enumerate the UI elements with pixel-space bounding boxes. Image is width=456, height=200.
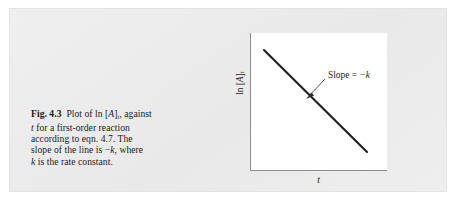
caption-line-3: according to eqn. 4.7. The — [31, 133, 183, 144]
plot-area: ln [A]t t Slope = −k — [221, 26, 401, 191]
plot-canvas — [221, 26, 401, 191]
figure-caption: Fig. 4.3 Plot of ln [A]t, against t for … — [31, 108, 183, 167]
data-line-lnA-vs-t — [264, 50, 367, 152]
caption-line-2: t for a first-order reaction — [31, 122, 183, 133]
caption-line-1: Fig. 4.3 Plot of ln [A]t, against — [31, 108, 183, 122]
figure-label: Fig. 4.3 — [31, 108, 62, 119]
figure-panel: Fig. 4.3 Plot of ln [A]t, against t for … — [9, 8, 447, 192]
caption-line-5: k is the rate constant. — [31, 156, 183, 167]
caption-line-4: slope of the line is −k, where — [31, 144, 183, 155]
x-axis-label: t — [250, 174, 387, 185]
y-axis-label: ln [A]t — [235, 53, 246, 113]
slope-annotation-label: Slope = −k — [328, 70, 370, 80]
